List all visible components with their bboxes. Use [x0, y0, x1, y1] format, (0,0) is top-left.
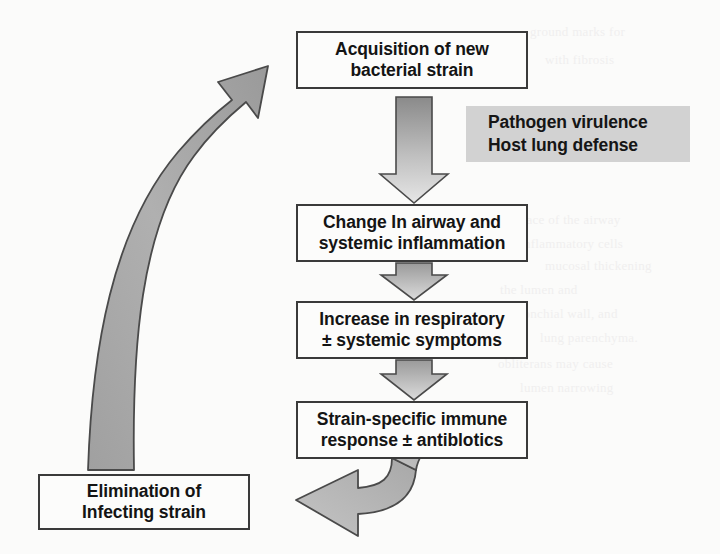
node-symptoms-line2: ± systemic symptoms [319, 330, 504, 351]
node-elimination[interactable]: Elimination of Infecting strain [38, 474, 250, 530]
annotation-line2: Host lung defense [488, 134, 690, 157]
node-inflammation[interactable]: Change In airway and systemic inflammati… [296, 204, 528, 262]
node-immune-response[interactable]: Strain-specific immune response ± antibl… [296, 401, 528, 459]
annotation-line1: Pathogen virulence [488, 111, 690, 134]
node-inflammation-line1: Change In airway and [319, 212, 506, 233]
arrow-symptoms-to-immune-response [381, 360, 447, 400]
node-symptoms-line1: Increase in respiratory [319, 309, 504, 330]
node-inflammation-line2: systemic inflammation [319, 233, 506, 254]
arrow-inflammation-to-symptoms [381, 263, 447, 300]
node-elimination-line2: Infecting strain [82, 502, 206, 523]
node-immune-response-line2: response ± antiblotics [317, 430, 507, 451]
node-acquisition[interactable]: Acquisition of new bacterial strain [296, 31, 528, 89]
diagram-canvas: ground marks for with fibrosis surface o… [0, 0, 720, 554]
arrow-elimination-to-acquisition [88, 66, 268, 470]
node-acquisition-line1: Acquisition of new [335, 39, 489, 60]
node-immune-response-line1: Strain-specific immune [317, 409, 507, 430]
node-symptoms[interactable]: Increase in respiratory ± systemic sympt… [296, 301, 528, 359]
node-acquisition-line2: bacterial strain [335, 60, 489, 81]
arrow-acquisition-to-inflammation [380, 97, 448, 203]
node-elimination-line1: Elimination of [82, 481, 206, 502]
annotation-modifiers: Pathogen virulence Host lung defense [466, 106, 690, 162]
